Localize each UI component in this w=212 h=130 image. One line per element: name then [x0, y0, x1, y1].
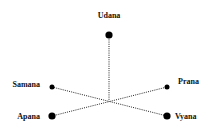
labels: Udana Samana Prana Apana Vyana	[12, 11, 198, 121]
node-udana	[105, 31, 112, 38]
node-vyana	[163, 112, 170, 119]
label-samana: Samana	[12, 80, 40, 89]
edges	[52, 35, 167, 116]
node-apana	[48, 112, 55, 119]
node-prana	[165, 85, 170, 90]
label-udana: Udana	[98, 11, 121, 20]
label-prana: Prana	[178, 77, 199, 86]
label-apana: Apana	[17, 112, 40, 121]
prana-vayu-diagram: Udana Samana Prana Apana Vyana	[0, 0, 212, 130]
node-samana	[50, 85, 55, 90]
label-vyana: Vyana	[175, 112, 197, 121]
